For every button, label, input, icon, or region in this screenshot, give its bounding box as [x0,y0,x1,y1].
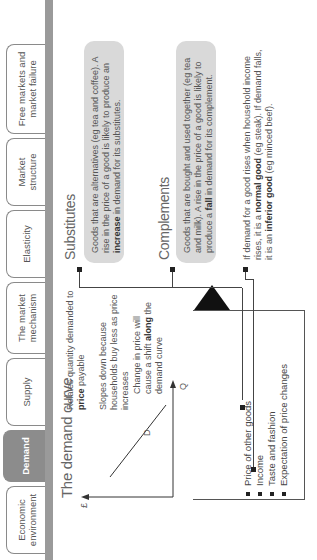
tab-elasticity[interactable]: Elasticity [6,210,46,278]
connector-node-icon [77,267,82,272]
demand-point-2: Slopes down because households buy less … [98,285,131,410]
tab-supply[interactable]: Supply [6,358,46,426]
curve-label: D [142,430,153,437]
complements-title: Complements [156,177,172,260]
bullet-icon [258,492,262,496]
substitutes-title: Substitutes [62,194,78,260]
connector-substitutes [79,270,80,288]
tab-bar: Economic environment Demand Supply The m… [0,0,46,560]
connector-node-icon [243,267,248,272]
demand-point-3: Change in price will cause a shift along… [132,294,165,394]
influence-item-taste: Taste and fashion [266,412,277,486]
complements-box: Goods that are bought and used together … [176,41,216,263]
tab-demand[interactable]: Demand [3,430,46,482]
connector-to-price-other [242,288,243,400]
demand-point-1: Relates quantity demanded to price payab… [65,285,87,410]
influence-item-expectation: Expectation of price changes [278,364,289,486]
connector-node-icon [251,467,256,472]
income-note: If demand for a good rises when househol… [242,45,275,260]
connector-trunk [79,287,242,288]
tab-free-markets[interactable]: Free markets and market failure [6,44,46,134]
connector-complements [172,270,173,288]
connector-node-icon [240,405,245,410]
demand-curve-graph [78,375,186,505]
tab-market-structure[interactable]: Market structure [6,138,46,206]
x-axis-label: Q [178,383,189,390]
connector-node-icon [170,267,175,272]
connector-to-income [253,280,254,470]
influence-item-price-other-goods: Price of other goods [242,401,253,486]
y-axis-label: £ [79,503,90,508]
tab-underline-bar [45,0,53,560]
substitutes-box: Goods that are alternatives (eg tea and … [84,41,124,263]
connector-income-jog [245,279,254,280]
bullet-icon [246,492,250,496]
bullet-icon [270,492,274,496]
bullet-icon [282,492,286,496]
tab-economic-environment[interactable]: Economic environment [6,486,46,554]
page: Economic environment Demand Supply The m… [0,0,317,560]
tab-market-mechanism[interactable]: The market mechanism [6,282,46,354]
